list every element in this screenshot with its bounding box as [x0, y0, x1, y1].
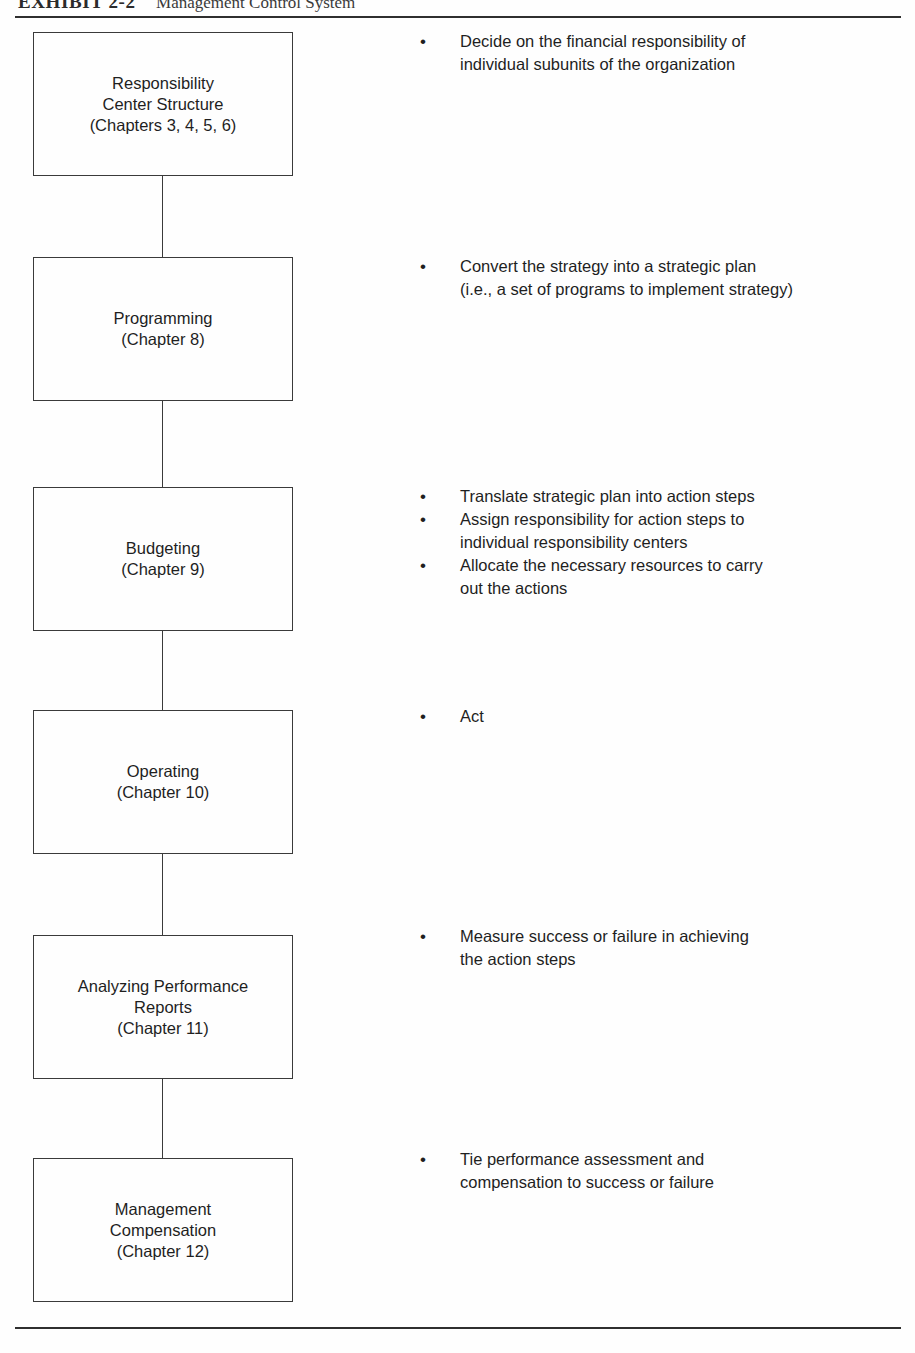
- bullet-group-responsibility-center-structure: •Decide on the financial responsibility …: [420, 30, 900, 76]
- header-rule: [15, 16, 901, 18]
- bullet-item: •Tie performance assessment and compensa…: [420, 1148, 900, 1194]
- flow-box-label: Budgeting (Chapter 9): [115, 538, 210, 580]
- bullet-dot-icon: •: [420, 485, 460, 508]
- bullet-dot-icon: •: [420, 554, 460, 577]
- footer-rule: [15, 1327, 901, 1329]
- bullet-text: Act: [460, 705, 900, 728]
- connector-line-2: [162, 401, 163, 487]
- exhibit-header-inner: EXHIBIT 2-2 Management Control System: [18, 0, 355, 13]
- bullet-item: •Convert the strategy into a strategic p…: [420, 255, 900, 301]
- connector-line-5: [162, 1079, 163, 1158]
- bullet-text: Measure success or failure in achieving …: [460, 925, 900, 971]
- bullet-dot-icon: •: [420, 925, 460, 948]
- exhibit-page: EXHIBIT 2-2 Management Control System Re…: [0, 0, 915, 1353]
- bullet-text: Allocate the necessary resources to carr…: [460, 554, 900, 600]
- bullet-group-management-compensation: •Tie performance assessment and compensa…: [420, 1148, 900, 1194]
- connector-line-1: [162, 176, 163, 257]
- bullet-item: •Assign responsibility for action steps …: [420, 508, 900, 554]
- flow-box-programming: Programming (Chapter 8): [33, 257, 293, 401]
- bullet-item: •Measure success or failure in achieving…: [420, 925, 900, 971]
- bullet-dot-icon: •: [420, 1148, 460, 1171]
- flow-box-responsibility-center-structure: Responsibility Center Structure (Chapter…: [33, 32, 293, 176]
- flow-box-label: Management Compensation (Chapter 12): [104, 1199, 222, 1262]
- flow-box-management-compensation: Management Compensation (Chapter 12): [33, 1158, 293, 1302]
- bullet-group-analyzing-performance-reports: •Measure success or failure in achieving…: [420, 925, 900, 971]
- exhibit-header: EXHIBIT 2-2 Management Control System: [0, 0, 915, 17]
- bullet-text: Assign responsibility for action steps t…: [460, 508, 900, 554]
- connector-line-3: [162, 631, 163, 710]
- bullet-item: •Decide on the financial responsibility …: [420, 30, 900, 76]
- flow-box-label: Responsibility Center Structure (Chapter…: [84, 73, 243, 136]
- bullet-dot-icon: •: [420, 508, 460, 531]
- bullet-item: •Act: [420, 705, 900, 728]
- bullet-group-budgeting: •Translate strategic plan into action st…: [420, 485, 900, 600]
- bullet-dot-icon: •: [420, 30, 460, 53]
- flow-box-operating: Operating (Chapter 10): [33, 710, 293, 854]
- flow-box-analyzing-performance-reports: Analyzing Performance Reports (Chapter 1…: [33, 935, 293, 1079]
- bullet-group-operating: •Act: [420, 705, 900, 728]
- bullet-text: Convert the strategy into a strategic pl…: [460, 255, 900, 301]
- connector-line-4: [162, 854, 163, 935]
- bullet-dot-icon: •: [420, 705, 460, 728]
- bullet-text: Tie performance assessment and compensat…: [460, 1148, 900, 1194]
- bullet-text: Decide on the financial responsibility o…: [460, 30, 900, 76]
- flow-box-label: Programming (Chapter 8): [107, 308, 218, 350]
- bullet-item: •Translate strategic plan into action st…: [420, 485, 900, 508]
- bullet-dot-icon: •: [420, 255, 460, 278]
- bullet-text: Translate strategic plan into action ste…: [460, 485, 900, 508]
- flow-box-budgeting: Budgeting (Chapter 9): [33, 487, 293, 631]
- flow-box-label: Operating (Chapter 10): [111, 761, 216, 803]
- bullet-group-programming: •Convert the strategy into a strategic p…: [420, 255, 900, 301]
- bullet-item: •Allocate the necessary resources to car…: [420, 554, 900, 600]
- exhibit-label: EXHIBIT 2-2: [18, 0, 136, 12]
- flow-box-label: Analyzing Performance Reports (Chapter 1…: [72, 976, 255, 1039]
- exhibit-title: Management Control System: [156, 0, 355, 12]
